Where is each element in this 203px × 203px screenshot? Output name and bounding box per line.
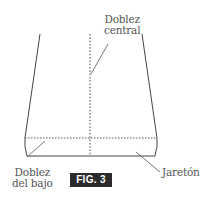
hem-leader-line: [136, 152, 160, 172]
center-fold-label-line2: central: [104, 25, 140, 36]
figure-number-badge: FIG. 3: [70, 173, 112, 187]
hem-fold-label: Doblez del bajo: [12, 167, 53, 189]
garment-diagram: Doblez central Doblez del bajo Jaretón F…: [0, 0, 203, 203]
center-fold-leader-line: [91, 44, 108, 74]
hem-fold-leader-line: [27, 141, 45, 157]
hem-fold-label-line2: del bajo: [12, 178, 53, 189]
center-fold-label: Doblez central: [104, 14, 140, 36]
hem-label-text: Jaretón: [162, 167, 200, 178]
hem-label: Jaretón: [162, 167, 200, 178]
